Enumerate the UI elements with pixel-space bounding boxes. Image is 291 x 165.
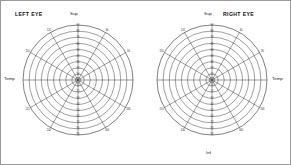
radial-tick-label-lower-70: 70 xyxy=(211,120,214,124)
perimetry-grid-svg: 1020304050607080901020304050607080903060… xyxy=(1,1,291,165)
angle-label-120deg: 120 xyxy=(181,28,186,32)
radial-tick-label-lower-70: 70 xyxy=(77,120,80,124)
angle-label-150deg: 150 xyxy=(25,49,30,53)
radial-tick-label-lower-10: 10 xyxy=(77,83,80,87)
angle-label-210deg: 210 xyxy=(159,107,164,111)
angle-label-60deg: 60 xyxy=(106,28,109,32)
angle-label-210deg: 210 xyxy=(25,107,30,111)
radial-tick-label-lower-90: 90 xyxy=(211,132,214,136)
angle-label-30deg: 30 xyxy=(261,49,264,53)
radial-tick-label-lower-40: 40 xyxy=(211,102,214,106)
radial-tick-label-lower-80: 80 xyxy=(211,126,214,130)
angle-label-300deg: 300 xyxy=(105,128,110,132)
radial-tick-label-lower-50: 50 xyxy=(77,108,80,112)
angle-label-120deg: 120 xyxy=(47,28,52,32)
radial-tick-label-lower-60: 60 xyxy=(211,114,214,118)
angle-label-240deg: 240 xyxy=(47,128,52,132)
angle-label-60deg: 60 xyxy=(240,28,243,32)
radial-tick-label-lower-10: 10 xyxy=(211,83,214,87)
radial-tick-label-lower-40: 40 xyxy=(77,102,80,106)
angle-label-300deg: 300 xyxy=(239,128,244,132)
polar-chart-right-eye: 1020304050607080901020304050607080903060… xyxy=(157,23,267,136)
radial-tick-label-lower-50: 50 xyxy=(211,108,214,112)
radial-tick-label-lower-90: 90 xyxy=(77,132,80,136)
angle-label-240deg: 240 xyxy=(181,128,186,132)
angle-label-30deg: 30 xyxy=(127,49,130,53)
radial-tick-label-lower-20: 20 xyxy=(211,89,214,93)
angle-label-330deg: 330 xyxy=(126,107,131,111)
radial-tick-label-lower-30: 30 xyxy=(211,96,214,100)
radial-tick-label-lower-80: 80 xyxy=(77,126,80,130)
angle-label-330deg: 330 xyxy=(260,107,265,111)
polar-chart-left-eye: 1020304050607080901020304050607080903060… xyxy=(23,23,133,136)
radial-tick-label-lower-20: 20 xyxy=(77,89,80,93)
form-sheet: LEFT EYE RIGHT EYE Sup Sup Temp Temp Inf… xyxy=(0,0,291,165)
angle-label-150deg: 150 xyxy=(159,49,164,53)
grid-layer: 1020304050607080901020304050607080903060… xyxy=(23,23,267,136)
perimetry-charts: 1020304050607080901020304050607080903060… xyxy=(1,1,291,165)
radial-tick-label-lower-60: 60 xyxy=(77,114,80,118)
radial-tick-label-lower-30: 30 xyxy=(77,96,80,100)
